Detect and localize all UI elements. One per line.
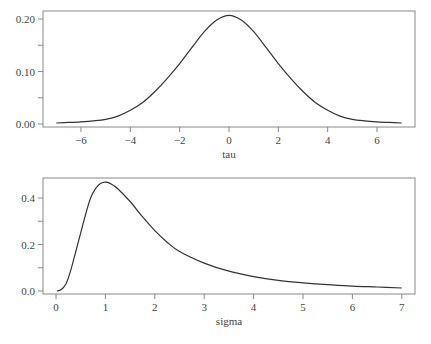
x-tick-label: 1 (103, 301, 109, 313)
x-tick-label: 0 (53, 301, 59, 313)
x-tick-label: 6 (374, 134, 380, 146)
y-tick-label: 0.10 (16, 66, 36, 78)
x-tick-label: 3 (201, 301, 207, 313)
sigma-density-plot: 0.00.20.4 01234567 sigma (21, 178, 415, 327)
y-tick-label: 0.4 (21, 192, 35, 204)
x-axis: −6−4−20246 (75, 127, 380, 146)
density-curve (57, 182, 402, 291)
density-curve (56, 15, 401, 123)
x-tick-label: −2 (174, 134, 186, 146)
x-tick-label: 5 (300, 301, 306, 313)
figure-canvas: 0.000.100.20 −6−4−20246 tau 0.00.20.4 01… (0, 0, 431, 344)
x-tick-label: −6 (75, 134, 87, 146)
x-tick-label: 2 (276, 134, 282, 146)
y-tick-label: 0.20 (16, 13, 36, 25)
y-tick-label: 0.00 (16, 118, 36, 130)
plot-frame (43, 11, 415, 127)
x-tick-label: 4 (325, 134, 331, 146)
x-tick-label: −4 (124, 134, 136, 146)
x-tick-label: 7 (399, 301, 405, 313)
y-tick-label: 0.0 (21, 285, 35, 297)
x-tick-label: 6 (350, 301, 356, 313)
x-axis-label: tau (222, 148, 236, 160)
y-tick-label: 0.2 (21, 239, 35, 251)
tau-density-plot: 0.000.100.20 −6−4−20246 tau (16, 11, 415, 160)
x-axis-label: sigma (216, 315, 242, 327)
plot-frame (43, 178, 415, 294)
x-tick-label: 2 (152, 301, 158, 313)
y-axis: 0.000.100.20 (16, 13, 43, 130)
x-tick-label: 0 (226, 134, 232, 146)
x-tick-label: 4 (251, 301, 257, 313)
x-axis: 01234567 (53, 294, 405, 313)
y-axis: 0.00.20.4 (21, 192, 43, 297)
